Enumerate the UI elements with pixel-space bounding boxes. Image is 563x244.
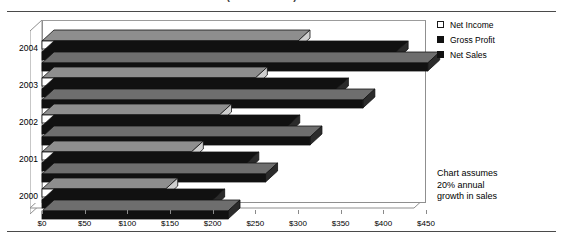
x-tick-label-400: $400 xyxy=(366,219,400,228)
filled-square-icon xyxy=(437,51,444,58)
filled-square-icon xyxy=(437,36,444,43)
x-tick-label-100: $100 xyxy=(110,219,144,228)
page-title-strip: OPERATING PERFORMANCE PROJECTIONS (in th… xyxy=(0,0,563,8)
legend-item-gross-profit[interactable]: Gross Profit xyxy=(437,33,557,46)
x-tick-label-300: $300 xyxy=(281,219,315,228)
annotation-line-2: 20% annual xyxy=(437,180,555,192)
x-tick-mark-450 xyxy=(426,210,427,214)
top-divider-rule xyxy=(7,11,556,12)
annotation-line-3: growth in sales xyxy=(437,191,555,203)
x-tick-label-450: $450 xyxy=(409,219,443,228)
chart-annotation: Chart assumes 20% annual growth in sales xyxy=(437,168,555,203)
x-tick-mark-350 xyxy=(341,210,342,214)
hollow-square-icon xyxy=(437,21,444,28)
x-tick-mark-300 xyxy=(298,210,299,214)
legend-item-net-income[interactable]: Net Income xyxy=(437,18,557,31)
legend-label-net-income: Net Income xyxy=(450,20,493,30)
x-tick-label-200: $200 xyxy=(196,219,230,228)
chart-legend: Net Income Gross Profit Net Sales xyxy=(437,18,557,63)
x-tick-mark-400 xyxy=(383,210,384,214)
x-tick-label-250: $250 xyxy=(238,219,272,228)
x-tick-mark-150 xyxy=(170,210,171,214)
x-tick-mark-200 xyxy=(213,210,214,214)
x-tick-label-50: $50 xyxy=(68,219,102,228)
x-tick-label-0: $0 xyxy=(25,219,59,228)
x-tick-mark-100 xyxy=(127,210,128,214)
x-tick-mark-50 xyxy=(85,210,86,214)
legend-label-net-sales: Net Sales xyxy=(450,50,487,60)
x-tick-label-350: $350 xyxy=(324,219,358,228)
x-tick-mark-250 xyxy=(255,210,256,214)
bottom-divider-rule xyxy=(7,231,556,232)
annotation-line-1: Chart assumes xyxy=(437,168,555,180)
x-axis: $0$50$100$150$200$250$300$350$400$450 xyxy=(0,210,563,232)
x-tick-label-150: $150 xyxy=(153,219,187,228)
legend-item-net-sales[interactable]: Net Sales xyxy=(437,48,557,61)
legend-label-gross-profit: Gross Profit xyxy=(450,35,495,45)
page-title: OPERATING PERFORMANCE PROJECTIONS (in th… xyxy=(6,0,297,2)
x-tick-mark-0 xyxy=(42,210,43,214)
